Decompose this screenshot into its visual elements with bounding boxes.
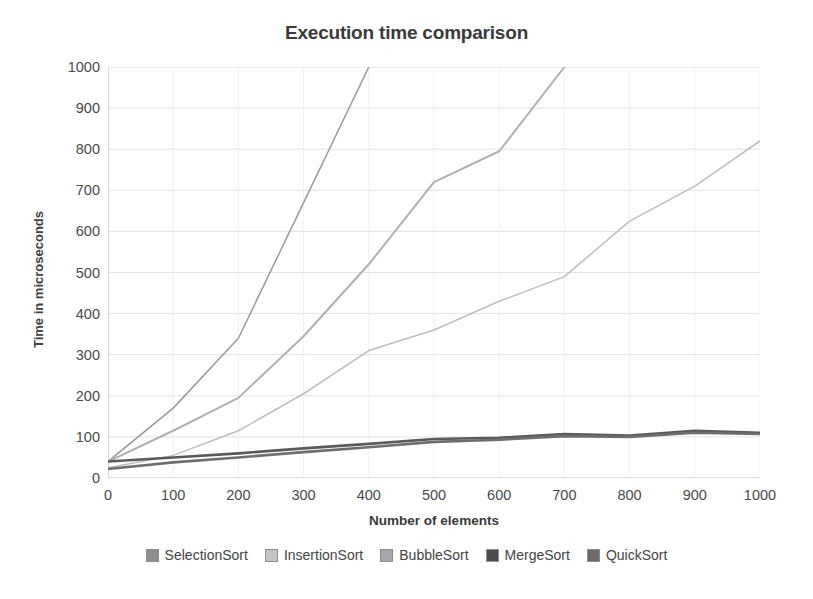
plot-svg: [108, 67, 760, 478]
legend-item-mergesort[interactable]: MergeSort: [486, 547, 570, 563]
legend-item-insertionsort[interactable]: InsertionSort: [265, 547, 363, 563]
legend-item-label: MergeSort: [505, 547, 570, 563]
y-tick-label-700: 700: [30, 182, 100, 198]
x-tick-label-600: 600: [464, 487, 534, 503]
x-tick-label-0: 0: [73, 487, 143, 503]
y-tick-label-500: 500: [30, 265, 100, 281]
legend-swatch-icon: [380, 549, 393, 562]
chart-container: Execution time comparison Time in micros…: [0, 0, 813, 599]
y-tick-label-900: 900: [30, 100, 100, 116]
x-tick-label-1000: 1000: [725, 487, 795, 503]
y-tick-label-400: 400: [30, 306, 100, 322]
x-tick-label-200: 200: [203, 487, 273, 503]
legend-item-label: QuickSort: [606, 547, 667, 563]
legend-item-label: SelectionSort: [165, 547, 248, 563]
x-axis-title: Number of elements: [108, 513, 760, 528]
gridlines: [108, 67, 760, 478]
x-tick-label-900: 900: [660, 487, 730, 503]
chart-title: Execution time comparison: [0, 22, 813, 44]
x-tick-label-800: 800: [595, 487, 665, 503]
legend-item-quicksort[interactable]: QuickSort: [587, 547, 667, 563]
y-tick-label-300: 300: [30, 347, 100, 363]
y-tick-label-0: 0: [30, 470, 100, 486]
legend-swatch-icon: [587, 549, 600, 562]
y-tick-label-600: 600: [30, 223, 100, 239]
x-tick-label-100: 100: [138, 487, 208, 503]
y-tick-label-100: 100: [30, 429, 100, 445]
legend-item-selectionsort[interactable]: SelectionSort: [146, 547, 248, 563]
y-tick-label-800: 800: [30, 141, 100, 157]
x-axis-tick-labels: 01002003004005006007008009001000: [108, 487, 760, 509]
y-axis-tick-labels: 10009008007006005004003002001000: [28, 67, 100, 478]
x-tick-label-300: 300: [269, 487, 339, 503]
y-tick-label-200: 200: [30, 388, 100, 404]
x-tick-label-500: 500: [399, 487, 469, 503]
legend-swatch-icon: [486, 549, 499, 562]
series-line-bubblesort: [108, 67, 564, 462]
plot-area: [108, 67, 760, 478]
chart-legend: SelectionSortInsertionSortBubbleSortMerg…: [0, 547, 813, 563]
x-tick-label-400: 400: [334, 487, 404, 503]
legend-swatch-icon: [265, 549, 278, 562]
legend-item-label: BubbleSort: [399, 547, 468, 563]
legend-swatch-icon: [146, 549, 159, 562]
y-tick-label-1000: 1000: [30, 59, 100, 75]
legend-item-label: InsertionSort: [284, 547, 363, 563]
legend-item-bubblesort[interactable]: BubbleSort: [380, 547, 468, 563]
x-tick-label-700: 700: [529, 487, 599, 503]
